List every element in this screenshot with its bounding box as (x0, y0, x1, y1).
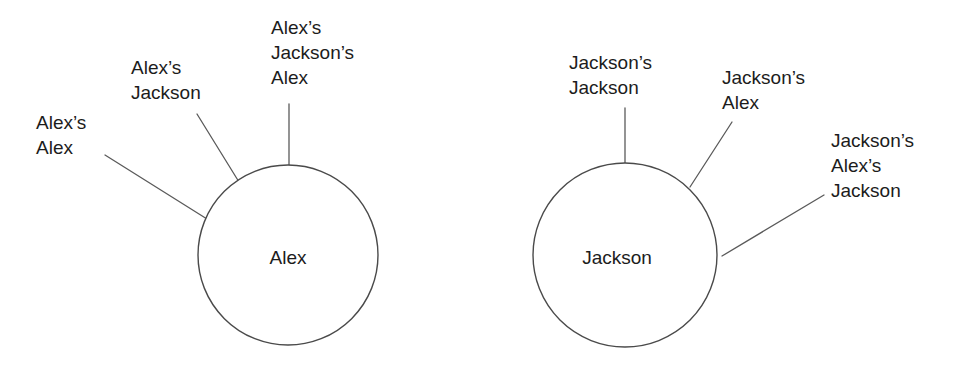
leaf-label-line-1: Jackson (569, 75, 652, 100)
leaf-label-line-1: Jackson (131, 80, 201, 105)
leaf-label-jackson-alex: Jackson’sAlex (722, 65, 805, 115)
leaf-label-line-0: Jackson’s (831, 128, 914, 153)
leaf-label-line-1: Alex (36, 135, 86, 160)
leaf-label-line-0: Alex’s (36, 110, 86, 135)
leaf-label-line-0: Alex’s (271, 15, 354, 40)
leaf-label-line-0: Jackson’s (569, 50, 652, 75)
leaf-label-line-2: Alex (271, 65, 354, 90)
leaf-label-line-1: Jackson’s (271, 40, 354, 65)
leaf-label-alex-jacksons-alex: Alex’sJackson’sAlex (271, 15, 354, 90)
connector-line-alex-alex (105, 155, 207, 219)
leaf-label-line-0: Jackson’s (722, 65, 805, 90)
connector-line-jackson-alexs-jackson (722, 195, 824, 256)
leaf-label-line-1: Alex’s (831, 153, 914, 178)
leaf-label-alex-jackson: Alex’sJackson (131, 55, 201, 105)
leaf-label-jackson-jackson: Jackson’sJackson (569, 50, 652, 100)
leaf-label-alex-alex: Alex’sAlex (36, 110, 86, 160)
leaf-label-line-1: Alex (722, 90, 805, 115)
connector-line-alex-jackson (197, 114, 239, 182)
connector-line-jackson-alex (690, 122, 732, 187)
leaf-label-line-2: Jackson (831, 178, 914, 203)
node-label-alex: Alex (270, 248, 307, 267)
leaf-label-line-0: Alex’s (131, 55, 201, 80)
diagram-canvas: Alex Jackson Alex’sAlex Alex’sJackson Al… (0, 0, 966, 374)
node-label-jackson: Jackson (582, 248, 652, 267)
leaf-label-jackson-alexs-jackson: Jackson’sAlex’sJackson (831, 128, 914, 203)
